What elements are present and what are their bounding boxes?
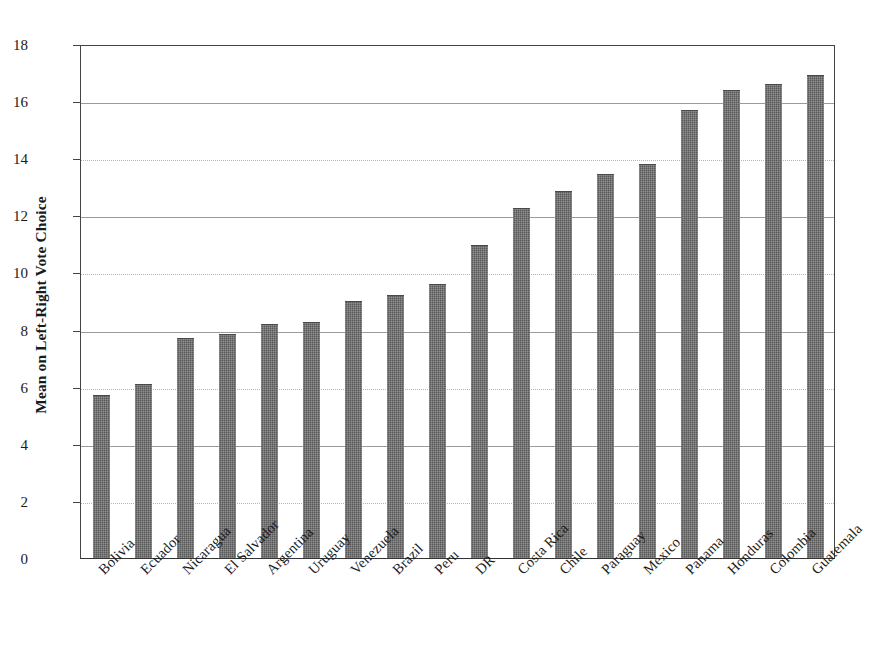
y-tick-mark-10 bbox=[73, 273, 80, 274]
bar-nicaragua bbox=[177, 338, 194, 558]
y-tick-label-16: 16 bbox=[0, 95, 28, 110]
y-tick-mark-16 bbox=[73, 102, 80, 103]
y-tick-label-4: 4 bbox=[0, 438, 28, 453]
bar-brazil bbox=[387, 295, 404, 558]
y-tick-label-10: 10 bbox=[0, 266, 28, 281]
gridline-14 bbox=[81, 160, 834, 161]
y-tick-label-0: 0 bbox=[0, 552, 28, 567]
y-axis-title: Mean on Left-Right Vote Choice bbox=[32, 95, 50, 515]
plot-area bbox=[80, 45, 835, 559]
bar-ecuador bbox=[135, 384, 152, 558]
y-tick-mark-8 bbox=[73, 331, 80, 332]
y-tick-label-2: 2 bbox=[0, 495, 28, 510]
bar-venezuela bbox=[345, 301, 362, 558]
gridline-10 bbox=[81, 274, 834, 275]
y-tick-label-8: 8 bbox=[0, 324, 28, 339]
bar-panama bbox=[681, 110, 698, 558]
bar-chart-figure: Mean on Left-Right Vote Choice 024681012… bbox=[0, 0, 871, 663]
y-tick-mark-14 bbox=[73, 159, 80, 160]
y-tick-label-18: 18 bbox=[0, 38, 28, 53]
bar-paraguay bbox=[597, 174, 614, 558]
bar-guatemala bbox=[807, 75, 824, 558]
bar-uruguay bbox=[303, 322, 320, 558]
bar-peru bbox=[429, 284, 446, 558]
bar-costa-rica bbox=[513, 208, 530, 558]
y-tick-label-14: 14 bbox=[0, 152, 28, 167]
y-tick-label-12: 12 bbox=[0, 209, 28, 224]
bar-bolivia bbox=[93, 395, 110, 558]
y-tick-mark-2 bbox=[73, 502, 80, 503]
gridline-8 bbox=[81, 332, 834, 333]
gridline-16 bbox=[81, 103, 834, 104]
gridline-12 bbox=[81, 217, 834, 218]
bar-mexico bbox=[639, 164, 656, 558]
bar-dr bbox=[471, 245, 488, 558]
y-tick-mark-4 bbox=[73, 445, 80, 446]
bar-honduras bbox=[723, 90, 740, 558]
y-tick-mark-12 bbox=[73, 216, 80, 217]
y-tick-label-6: 6 bbox=[0, 381, 28, 396]
y-tick-mark-18 bbox=[73, 45, 80, 46]
y-tick-mark-6 bbox=[73, 388, 80, 389]
bar-colombia bbox=[765, 84, 782, 558]
bar-chile bbox=[555, 191, 572, 558]
